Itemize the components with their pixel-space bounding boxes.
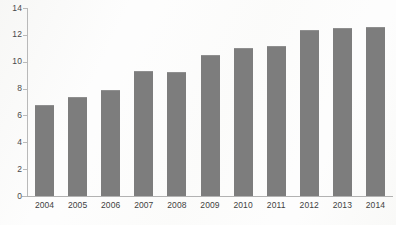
bar-2014 bbox=[366, 27, 385, 196]
bar-2005 bbox=[68, 97, 87, 196]
bar-2011 bbox=[267, 46, 286, 196]
x-axis-line bbox=[22, 196, 393, 197]
x-tick-label-2007: 2007 bbox=[127, 201, 160, 210]
y-tick-mark-14 bbox=[23, 8, 27, 9]
x-tick-label-2005: 2005 bbox=[61, 201, 94, 210]
x-tick-label-2009: 2009 bbox=[193, 201, 226, 210]
y-tick-mark-10 bbox=[23, 62, 27, 63]
bar-2013 bbox=[333, 28, 352, 196]
bars-layer bbox=[28, 8, 392, 196]
x-tick-label-2013: 2013 bbox=[326, 201, 359, 210]
y-tick-label-8: 8 bbox=[0, 84, 22, 93]
y-tick-label-14: 14 bbox=[0, 4, 22, 13]
y-tick-mark-6 bbox=[23, 115, 27, 116]
y-tick-label-4: 4 bbox=[0, 138, 22, 147]
y-tick-label-0: 0 bbox=[0, 192, 22, 201]
y-tick-label-10: 10 bbox=[0, 57, 22, 66]
x-tick-label-2006: 2006 bbox=[94, 201, 127, 210]
bar-2010 bbox=[234, 48, 253, 196]
x-tick-label-2012: 2012 bbox=[293, 201, 326, 210]
y-tick-label-12: 12 bbox=[0, 30, 22, 39]
y-tick-label-6: 6 bbox=[0, 111, 22, 120]
x-tick-label-2008: 2008 bbox=[160, 201, 193, 210]
x-tick-label-2004: 2004 bbox=[28, 201, 61, 210]
y-tick-mark-12 bbox=[23, 35, 27, 36]
y-tick-mark-0 bbox=[23, 196, 27, 197]
bar-2006 bbox=[101, 90, 120, 196]
bar-2004 bbox=[35, 105, 54, 196]
y-tick-mark-2 bbox=[23, 169, 27, 170]
bar-2007 bbox=[134, 71, 153, 196]
y-tick-label-2: 2 bbox=[0, 165, 22, 174]
y-tick-mark-4 bbox=[23, 142, 27, 143]
y-tick-mark-8 bbox=[23, 89, 27, 90]
bar-2012 bbox=[300, 30, 319, 197]
x-tick-label-2014: 2014 bbox=[359, 201, 392, 210]
x-tick-label-2010: 2010 bbox=[227, 201, 260, 210]
bar-2009 bbox=[201, 55, 220, 196]
x-tick-label-2011: 2011 bbox=[260, 201, 293, 210]
bar-2008 bbox=[167, 72, 186, 196]
bar-chart: 02468101214 2004200520062007200820092010… bbox=[0, 0, 396, 225]
